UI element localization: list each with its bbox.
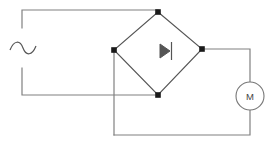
node-bridge-right (199, 46, 205, 52)
diode-symbol (160, 42, 172, 60)
circuit-schematic: M (0, 0, 276, 144)
bridge-rectifier-diamond (114, 12, 202, 95)
bridge-diamond-outline (114, 12, 202, 95)
junction-node-layer (111, 9, 205, 98)
sine-wave-icon (10, 42, 36, 54)
diode-triangle-icon (160, 44, 170, 58)
motor-label: M (246, 91, 254, 102)
motor-symbol: M (236, 82, 264, 110)
wire-motor-to-bottom-rail (114, 110, 250, 135)
node-bridge-top (155, 9, 161, 15)
node-bridge-left (111, 47, 117, 53)
node-bridge-bottom (155, 92, 161, 98)
circuit-diagram-canvas: M (0, 0, 276, 144)
wire-bridge-right-to-motor (202, 49, 250, 82)
wire-ac-bottom-to-bridge-bottom (22, 68, 158, 95)
ac-source-symbol (10, 42, 36, 54)
wire-ac-top-to-bridge-top (22, 10, 158, 28)
